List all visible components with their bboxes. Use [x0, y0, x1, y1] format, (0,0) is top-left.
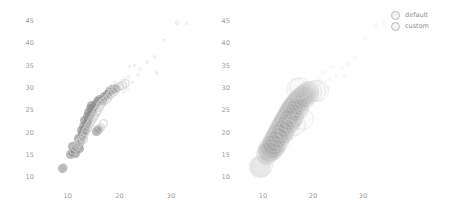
data-point	[363, 37, 367, 41]
legend-marker-default-icon	[391, 11, 400, 20]
data-point	[59, 163, 68, 172]
data-point	[153, 55, 157, 59]
x-tick-label: 10	[255, 192, 271, 200]
data-point	[175, 21, 179, 25]
data-point	[79, 135, 88, 144]
data-point	[353, 55, 357, 59]
data-point	[315, 86, 319, 90]
data-point	[155, 71, 159, 75]
y-tick-label: 40	[18, 39, 34, 47]
x-tick-label: 30	[163, 192, 179, 200]
data-point	[326, 85, 330, 89]
legend-entry-custom[interactable]: custom	[389, 21, 457, 33]
data-point	[146, 60, 150, 64]
data-point	[292, 108, 314, 130]
y-tick-label: 35	[18, 62, 34, 70]
x-tick-label: 30	[355, 192, 371, 200]
y-tick-label: 20	[214, 129, 230, 137]
data-point	[328, 77, 332, 81]
y-tick-label: 10	[18, 173, 34, 181]
legend-label-default: default	[405, 11, 428, 20]
data-point	[185, 22, 189, 26]
plot-area-left	[0, 0, 212, 194]
panel-left: 1015202530354045 102030	[0, 0, 205, 211]
data-point	[122, 91, 126, 95]
data-point	[331, 65, 335, 69]
x-tick-label: 10	[60, 192, 76, 200]
data-point	[138, 67, 142, 71]
y-tick-label: 15	[214, 151, 230, 159]
y-tick-label: 30	[214, 84, 230, 92]
legend-label-custom: custom	[405, 22, 429, 31]
panel-right: 1015202530354045 102030	[198, 0, 393, 211]
data-point	[99, 119, 108, 128]
data-point	[334, 73, 338, 77]
x-tick-label: 20	[111, 192, 127, 200]
plot-area-right	[198, 0, 403, 194]
y-tick-label: 10	[214, 173, 230, 181]
legend-marker-custom-icon	[391, 22, 400, 31]
data-point	[127, 75, 131, 79]
data-point	[131, 81, 135, 85]
y-tick-label: 15	[18, 151, 34, 159]
data-point	[109, 84, 113, 88]
data-point	[133, 64, 137, 68]
y-tick-label: 20	[18, 129, 34, 137]
y-tick-label: 25	[18, 106, 34, 114]
data-point	[106, 86, 110, 90]
x-tick-label: 20	[305, 192, 321, 200]
data-point	[125, 88, 129, 92]
data-point	[162, 39, 166, 43]
data-point	[321, 70, 325, 74]
data-point	[323, 80, 327, 84]
scatter-figure: 1015202530354045 102030 1015202530354045…	[0, 0, 459, 211]
data-point	[382, 21, 386, 25]
y-tick-label: 35	[214, 62, 230, 70]
data-point	[136, 73, 140, 77]
y-tick-label: 45	[214, 17, 230, 25]
data-point	[128, 65, 132, 69]
y-tick-label: 30	[18, 84, 34, 92]
data-point	[346, 62, 350, 66]
y-tick-label: 40	[214, 39, 230, 47]
data-point	[342, 74, 346, 78]
data-point	[340, 66, 344, 70]
data-point	[374, 23, 378, 27]
y-tick-label: 25	[214, 106, 230, 114]
data-point	[123, 77, 127, 81]
y-tick-label: 45	[18, 17, 34, 25]
data-point	[317, 78, 321, 82]
legend: default custom	[389, 10, 457, 36]
